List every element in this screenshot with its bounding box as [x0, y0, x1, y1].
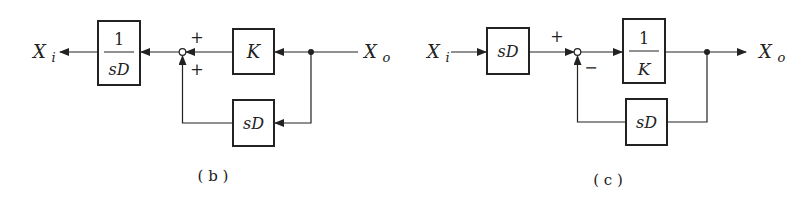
caption-c: ( c ) [593, 171, 623, 189]
input-label-xo: X o [362, 41, 391, 65]
block-numerator: 1 [639, 29, 649, 48]
block-sd-pre-label: sD [497, 42, 518, 61]
output-label-xi: X i [31, 41, 56, 65]
sign-bottom: + [190, 60, 203, 79]
sign-top: + [190, 28, 203, 47]
block-denominator: K [637, 59, 652, 79]
diagram-b: X i 1 sD + + K X o sD ( b ) [31, 21, 391, 185]
sign-top: + [550, 27, 563, 46]
summing-junction [179, 49, 186, 56]
input-label-xi: X i [425, 41, 450, 65]
caption-b: ( b ) [198, 167, 229, 185]
block-sd-label: sD [243, 114, 264, 133]
block-diagrams: X i 1 sD + + K X o sD ( b ) [0, 0, 803, 203]
output-label-xo: X o [757, 41, 786, 65]
block-numerator: 1 [114, 30, 124, 49]
block-denominator: sD [108, 60, 129, 79]
sign-bottom: − [584, 58, 597, 77]
diagram-c: X i sD + − 1 K X o sD ( c ) [425, 19, 786, 189]
arrow-branch-to-sd [275, 52, 311, 123]
block-k-label: K [246, 41, 262, 62]
line-branch-to-sd [667, 52, 707, 122]
block-sd-feedback-label: sD [636, 113, 657, 132]
summing-junction [574, 49, 581, 56]
